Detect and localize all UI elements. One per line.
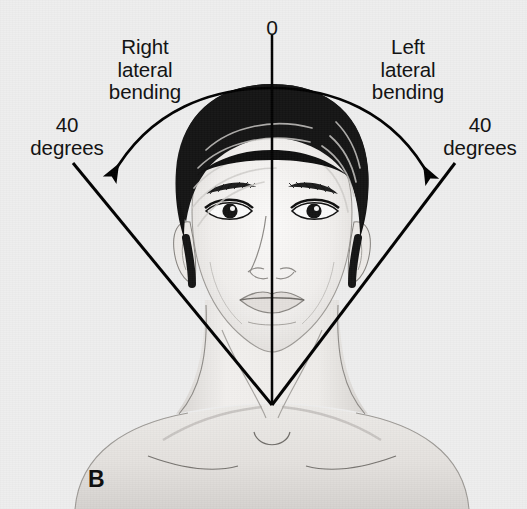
figure-panel: 0 Right lateral bending Left lateral ben… <box>0 0 527 509</box>
right-bending-line2: lateral <box>109 59 181 82</box>
left-degrees-value: 40 <box>443 114 516 137</box>
right-lateral-bending-label: Right lateral bending <box>109 36 181 104</box>
right-degrees-label: 40 degrees <box>30 114 103 159</box>
shoulders-torso <box>75 404 469 509</box>
left-bending-line1: Left <box>372 36 444 59</box>
neutral-zero-label: 0 <box>266 17 278 40</box>
anatomical-illustration <box>0 0 527 509</box>
figure-panel-label: B <box>88 466 105 493</box>
right-bending-line1: Right <box>109 36 181 59</box>
right-degrees-unit: degrees <box>30 137 103 160</box>
right-bending-line3: bending <box>109 81 181 104</box>
left-degrees-unit: degrees <box>443 137 516 160</box>
left-lateral-bending-label: Left lateral bending <box>372 36 444 104</box>
left-degrees-label: 40 degrees <box>443 114 516 159</box>
left-bending-line2: lateral <box>372 59 444 82</box>
left-bending-line3: bending <box>372 81 444 104</box>
right-degrees-value: 40 <box>30 114 103 137</box>
